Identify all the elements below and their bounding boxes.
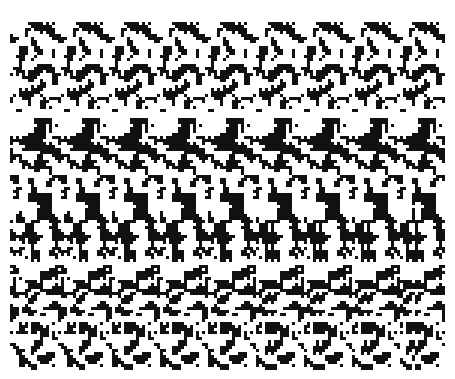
stereogram-canvas: [0, 0, 455, 379]
stereogram-image: Black and white random-dot autostereogra…: [0, 0, 455, 379]
